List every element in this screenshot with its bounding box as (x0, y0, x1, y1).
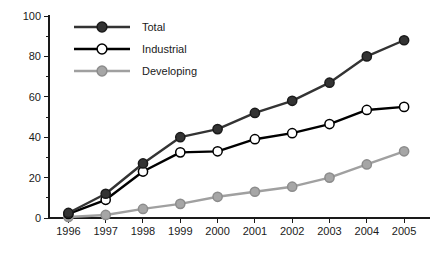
legend-item-industrial: Industrial (74, 43, 187, 55)
y-axis-tick-label: 60 (29, 91, 41, 103)
data-point (362, 105, 371, 114)
data-point (288, 182, 297, 191)
chart-canvas: 020406080100 199619971998199920002001200… (0, 0, 438, 256)
data-point (138, 159, 147, 168)
data-point (400, 36, 409, 45)
series-developing (64, 147, 409, 222)
data-point (64, 208, 73, 217)
legend-label: Total (142, 21, 165, 33)
series-total (64, 36, 409, 218)
data-point (176, 199, 185, 208)
legend-swatch-marker (97, 66, 107, 76)
data-point (213, 192, 222, 201)
legend-label: Developing (142, 65, 197, 77)
x-axis-tick-label: 2001 (243, 225, 267, 237)
data-point (288, 129, 297, 138)
data-point (362, 160, 371, 169)
legend-item-developing: Developing (74, 65, 197, 77)
x-axis-tick-label: 1997 (93, 225, 117, 237)
series-line (68, 107, 404, 214)
y-axis-tick-label: 0 (35, 212, 41, 224)
series-layer (64, 36, 409, 222)
y-axis-tick-label: 40 (29, 131, 41, 143)
data-point (250, 108, 259, 117)
data-point (325, 173, 334, 182)
data-point (288, 96, 297, 105)
data-point (213, 125, 222, 134)
x-axis-tick-label: 2004 (355, 225, 379, 237)
data-point (250, 187, 259, 196)
legend-swatch-marker (97, 22, 107, 32)
data-point (176, 133, 185, 142)
data-point (400, 102, 409, 111)
data-point (325, 78, 334, 87)
data-point (101, 189, 110, 198)
x-axis-tick-label: 1999 (168, 225, 192, 237)
y-axis-tick-label: 80 (29, 50, 41, 62)
legend-swatch-marker (97, 44, 107, 54)
legend-item-total: Total (74, 21, 165, 33)
y-axis-tick-label: 20 (29, 172, 41, 184)
data-point (250, 135, 259, 144)
x-axis-tick-label: 2002 (280, 225, 304, 237)
x-axis-tick-label: 2000 (205, 225, 229, 237)
x-axis-tick-label: 1996 (56, 225, 80, 237)
chart-legend: TotalIndustrialDeveloping (74, 21, 197, 77)
line-chart: 020406080100 199619971998199920002001200… (0, 0, 438, 256)
x-axis-tick-label: 2003 (317, 225, 341, 237)
data-point (213, 147, 222, 156)
y-axis: 020406080100 (23, 10, 49, 224)
data-point (101, 210, 110, 219)
data-point (176, 148, 185, 157)
data-point (325, 119, 334, 128)
data-point (400, 147, 409, 156)
legend-label: Industrial (142, 43, 187, 55)
series-line (68, 40, 404, 213)
x-axis-tick-label: 1998 (131, 225, 155, 237)
x-axis: 1996199719981999200020012002200320042005 (49, 218, 430, 237)
x-axis-tick-label: 2005 (392, 225, 416, 237)
y-axis-tick-label: 100 (23, 10, 41, 22)
data-point (362, 52, 371, 61)
data-point (138, 204, 147, 213)
